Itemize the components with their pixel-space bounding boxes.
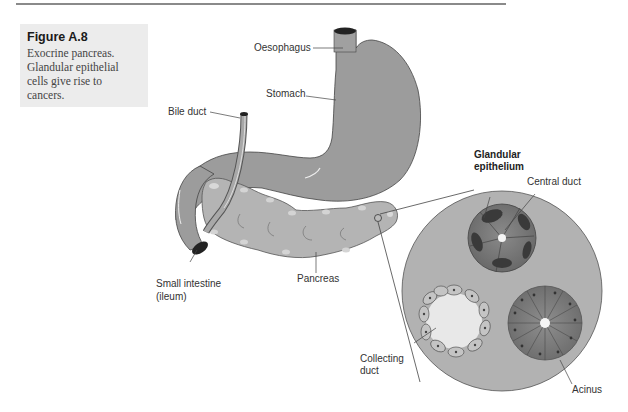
label-oesophagus: Oesophagus xyxy=(254,42,311,53)
label-collecting: Collecting xyxy=(360,353,404,364)
label-stomach: Stomach xyxy=(266,88,305,99)
label-collecting-duct: duct xyxy=(360,365,379,376)
label-small-intestine-sub: (ileum) xyxy=(156,291,187,302)
label-pancreas: Pancreas xyxy=(297,273,339,284)
magnified-region-marker xyxy=(375,215,382,222)
glandular-epithelium xyxy=(468,204,536,272)
label-central-duct: Central duct xyxy=(527,176,581,187)
acinus xyxy=(508,286,582,360)
oesophagus-opening xyxy=(334,28,356,35)
anatomy-illustration: Oesophagus Stomach Bile duct Small intes… xyxy=(0,0,628,412)
label-epithelium: epithelium xyxy=(474,161,524,172)
label-bile-duct: Bile duct xyxy=(168,106,207,117)
label-glandular: Glandular xyxy=(474,149,521,160)
inset-magnification xyxy=(378,190,602,391)
label-acinus: Acinus xyxy=(572,384,602,395)
label-small-intestine: Small intestine xyxy=(156,278,221,289)
